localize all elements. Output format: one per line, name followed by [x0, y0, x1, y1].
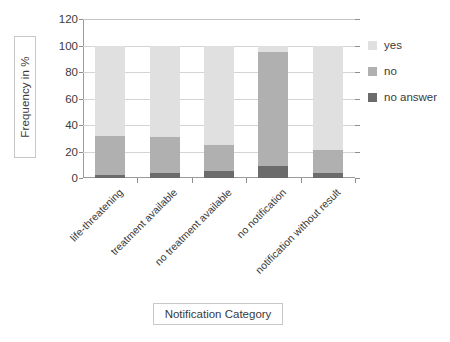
y-tick-label: 80: [44, 66, 78, 78]
x-tick-mark: [301, 178, 302, 183]
bar-segment-yes: [204, 46, 234, 145]
x-category-label-text: life-threatening: [67, 186, 125, 244]
bar-stack[interactable]: [95, 19, 125, 178]
y-tick-mark-right: [355, 46, 360, 47]
x-tick-mark: [137, 178, 138, 183]
x-axis-title: Notification Category: [153, 303, 283, 325]
y-tick-mark-right: [355, 99, 360, 100]
chart-legend: yesnono answer: [368, 33, 448, 111]
y-axis-title: Frequency in %: [14, 36, 36, 158]
bar-segment-yes: [95, 46, 125, 136]
bar-segment-no-answer: [313, 173, 343, 178]
y-axis-title-label: Frequency in %: [19, 56, 31, 137]
x-tick-mark: [192, 178, 193, 183]
y-tick-label: 100: [44, 40, 78, 52]
plot-area: [83, 19, 355, 178]
legend-item[interactable]: yes: [368, 33, 448, 57]
legend-swatch-icon: [368, 67, 377, 76]
bar-segment-no: [258, 52, 288, 166]
bar-segment-yes: [313, 46, 343, 151]
x-category-label-text: no notification: [234, 186, 288, 240]
bar-stack[interactable]: [258, 19, 288, 178]
bar-segment-no: [150, 137, 180, 173]
legend-swatch-icon: [368, 93, 377, 102]
x-tick-mark: [355, 178, 356, 183]
y-tick-label: 0: [44, 172, 78, 184]
y-tick-mark-right: [355, 152, 360, 153]
y-tick-label: 60: [44, 93, 78, 105]
bar-segment-no-answer: [95, 175, 125, 178]
y-tick-mark: [79, 178, 83, 179]
y-tick-label: 120: [44, 13, 78, 25]
bar-segment-no-answer: [150, 173, 180, 178]
y-tick-mark-right: [355, 19, 360, 20]
bar-segment-yes: [258, 46, 288, 53]
bar-stack[interactable]: [204, 19, 234, 178]
bar-stack[interactable]: [150, 19, 180, 178]
legend-swatch-icon: [368, 41, 377, 50]
bar-segment-yes: [150, 46, 180, 137]
y-tick-label: 40: [44, 119, 78, 131]
bar-stack[interactable]: [313, 19, 343, 178]
y-tick-mark-right: [355, 125, 360, 126]
stacked-bar-chart: Frequency in % 120100806040200 life-thre…: [0, 0, 450, 342]
bar-segment-no-answer: [258, 166, 288, 178]
legend-label: no: [384, 65, 397, 77]
legend-item[interactable]: no answer: [368, 85, 448, 109]
x-category-label: life-threatening: [67, 186, 125, 244]
legend-label: yes: [384, 39, 402, 51]
bar-series-group: [83, 19, 355, 178]
bar-segment-no: [204, 145, 234, 172]
y-tick-label: 20: [44, 146, 78, 158]
y-tick-mark-right: [355, 72, 360, 73]
bar-segment-no: [313, 150, 343, 173]
x-axis-title-label: Notification Category: [165, 308, 272, 320]
x-tick-mark: [246, 178, 247, 183]
bar-segment-no: [95, 136, 125, 176]
legend-item[interactable]: no: [368, 59, 448, 83]
bar-segment-no-answer: [204, 171, 234, 178]
legend-label: no answer: [384, 91, 437, 103]
x-category-label: no notification: [234, 186, 288, 240]
